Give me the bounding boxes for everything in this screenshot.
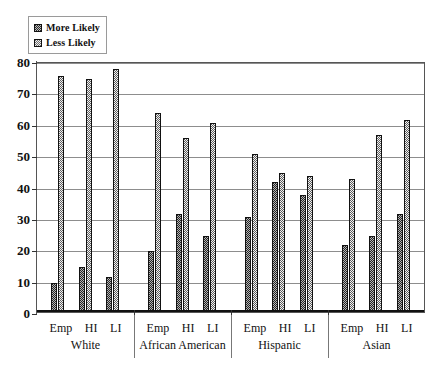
x-axis-tick-label: LI <box>401 321 412 336</box>
bar-group <box>134 63 231 312</box>
bar <box>113 69 119 311</box>
x-axis-tick <box>328 310 329 315</box>
bar <box>349 179 355 311</box>
y-axis-tick-label: 10 <box>17 275 30 291</box>
x-axis-tick-label: LI <box>110 321 121 336</box>
bar <box>252 154 258 311</box>
bar <box>148 251 154 311</box>
bar-pair <box>148 113 161 311</box>
group-divider <box>328 314 329 358</box>
x-axis-tick-label: HI <box>85 321 98 336</box>
bar-pair <box>397 120 410 311</box>
x-axis-group: EmpHILIHispanic <box>231 314 328 380</box>
bar <box>397 214 403 311</box>
x-axis-group-label: Asian <box>328 336 425 352</box>
bar <box>279 173 285 311</box>
x-axis-labels: EmpHILIWhiteEmpHILIAfrican AmericanEmpHI… <box>37 314 425 380</box>
x-axis-tick-label: Emp <box>147 321 170 336</box>
x-axis-tick <box>231 310 232 315</box>
x-axis-tick-label: HI <box>376 321 389 336</box>
x-axis-group: EmpHILIAsian <box>328 314 425 380</box>
bar <box>307 176 313 311</box>
x-axis-group-label: Hispanic <box>231 336 328 352</box>
y-axis-tick-label: 0 <box>24 306 31 322</box>
bar-pair <box>272 173 285 311</box>
bar-group <box>327 63 424 312</box>
x-axis-tick-label: Emp <box>341 321 364 336</box>
bar <box>155 113 161 311</box>
y-axis-tick-label: 50 <box>17 149 30 165</box>
bar-pair <box>51 76 64 311</box>
bar-pair <box>176 138 189 311</box>
bar <box>210 123 216 311</box>
bar-pair <box>245 154 258 311</box>
bar <box>342 245 348 311</box>
x-axis-subcategory-row: EmpHILI <box>134 314 231 336</box>
y-axis-tick-label: 80 <box>17 55 30 71</box>
legend-item-less-likely: Less Likely <box>34 35 100 50</box>
bar-pair <box>369 135 382 311</box>
bar <box>404 120 410 311</box>
x-axis-tick-label: LI <box>304 321 315 336</box>
x-axis-tick-label: HI <box>182 321 195 336</box>
bar <box>183 138 189 311</box>
x-axis-tick-label: LI <box>207 321 218 336</box>
chart-figure: More Likely Less Likely 0102030405060708… <box>0 0 441 382</box>
y-axis-tick-label: 40 <box>17 181 30 197</box>
bar <box>272 182 278 311</box>
bar-pair <box>342 179 355 311</box>
bar <box>176 214 182 311</box>
bar <box>79 267 85 311</box>
y-axis-tick-label: 70 <box>17 86 30 102</box>
bar <box>106 277 112 312</box>
bar-pair <box>203 123 216 311</box>
x-axis-subcategory-row: EmpHILI <box>231 314 328 336</box>
bar <box>51 283 57 311</box>
group-divider <box>134 314 135 358</box>
bar-pair <box>106 69 119 311</box>
group-divider <box>231 314 232 358</box>
bar <box>245 217 251 311</box>
bar <box>86 79 92 311</box>
x-axis-group-label: White <box>37 336 134 352</box>
plot-area: 01020304050607080 <box>37 62 425 313</box>
chart-legend: More Likely Less Likely <box>28 16 107 54</box>
bar-group <box>37 63 134 312</box>
x-axis-group: EmpHILIAfrican American <box>134 314 231 380</box>
x-axis-group-label: African American <box>134 336 231 352</box>
x-axis-tick-label: Emp <box>244 321 267 336</box>
less-likely-swatch <box>34 39 42 47</box>
legend-label-more-likely: More Likely <box>46 22 100 33</box>
y-axis-tick-label: 20 <box>17 243 30 259</box>
bar-group <box>231 63 328 312</box>
bar <box>369 236 375 311</box>
bar-pair <box>79 79 92 311</box>
x-axis-tick <box>134 310 135 315</box>
x-axis-tick-label: Emp <box>50 321 73 336</box>
x-axis-subcategory-row: EmpHILI <box>37 314 134 336</box>
bar-groups <box>37 63 424 312</box>
y-axis-tick-label: 60 <box>17 118 30 134</box>
bar-pair <box>300 176 313 311</box>
x-axis-subcategory-row: EmpHILI <box>328 314 425 336</box>
more-likely-swatch <box>34 24 42 32</box>
x-axis-tick-label: HI <box>279 321 292 336</box>
legend-item-more-likely: More Likely <box>34 20 100 35</box>
bar <box>376 135 382 311</box>
y-axis-tick-label: 30 <box>17 212 30 228</box>
bar <box>58 76 64 311</box>
bar <box>300 195 306 311</box>
bar <box>203 236 209 311</box>
x-axis-group: EmpHILIWhite <box>37 314 134 380</box>
legend-label-less-likely: Less Likely <box>46 37 96 48</box>
